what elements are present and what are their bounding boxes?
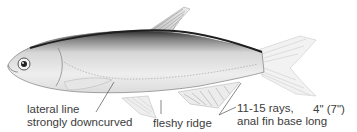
annotation-text: strongly downcurved	[27, 116, 132, 129]
annotation-text: lateral line	[27, 103, 132, 116]
fish-body	[8, 30, 264, 92]
caudal-fin	[258, 36, 316, 96]
annotation-lateral-line: lateral line strongly downcurved	[27, 103, 132, 129]
dorsal-fin	[150, 7, 190, 33]
annotation-text: anal fin base long	[237, 115, 327, 128]
annotation-fleshy-ridge: fleshy ridge	[153, 117, 212, 130]
size-label: 4" (7")	[313, 103, 345, 116]
annotation-text: fleshy ridge	[153, 117, 212, 130]
